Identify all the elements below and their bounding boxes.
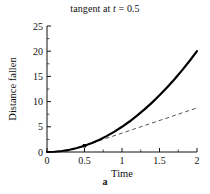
y-tick-group [47, 26, 51, 152]
x-tick-label: 0.5 [78, 155, 91, 166]
y-tick-label: 25 [33, 21, 43, 32]
y-tick-label: 20 [33, 46, 43, 57]
x-tick-label: 1 [120, 155, 125, 166]
x-tick-label: 2 [195, 155, 200, 166]
x-tick-label: 0 [45, 155, 50, 166]
y-tick-label: 0 [38, 147, 43, 158]
y-tick-label: 5 [38, 121, 43, 132]
tangent-point-marker [83, 144, 86, 147]
distance-curve-series [47, 51, 197, 152]
y-tick-label: 10 [33, 96, 43, 107]
figure-container: tangent at t = 0.5 [0, 0, 210, 194]
figure-caption: a [0, 176, 210, 187]
x-tick-label: 1.5 [153, 155, 166, 166]
plot-area: 0 5 10 15 20 25 0 0.5 1 1.5 2 Time Dista… [0, 0, 210, 194]
y-axis-title: Distance fallen [7, 57, 18, 121]
y-tick-label: 15 [33, 71, 43, 82]
